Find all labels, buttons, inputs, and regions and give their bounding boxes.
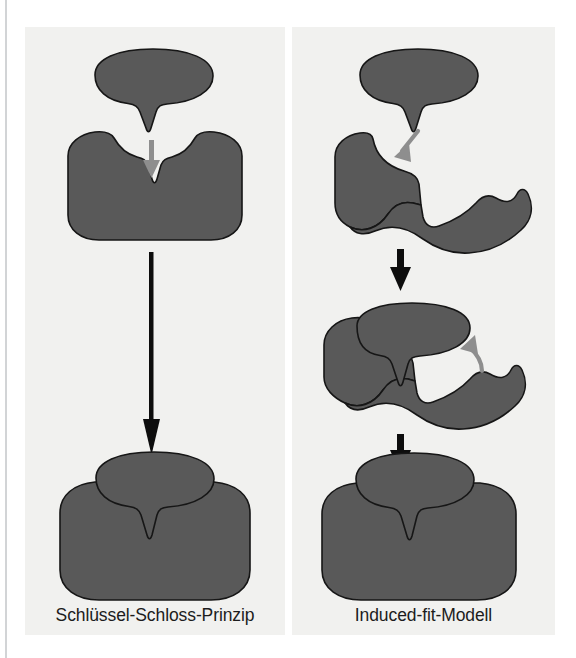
gray-diagonal-arrow — [394, 131, 418, 162]
caption-induced-fit: Induced-fit-Modell — [292, 605, 555, 626]
figure-root: Schlüssel-Schloss-Prinzip — [0, 0, 576, 658]
panel-left-illustration — [25, 27, 285, 635]
substrate-key-shape — [360, 49, 478, 132]
page-edge-line — [5, 0, 7, 658]
substrate-key-shape — [95, 49, 213, 132]
black-down-arrow-1 — [390, 249, 411, 291]
panel-right-illustration — [292, 27, 555, 635]
panel-lock-and-key: Schlüssel-Schloss-Prinzip — [25, 27, 285, 635]
enzyme-lock-shape — [68, 132, 242, 240]
caption-lock-and-key: Schlüssel-Schloss-Prinzip — [25, 605, 285, 626]
panel-induced-fit: Induced-fit-Modell — [292, 27, 555, 635]
long-black-down-arrow — [143, 252, 160, 455]
